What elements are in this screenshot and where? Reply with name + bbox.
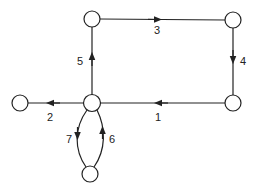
node-d xyxy=(84,95,101,112)
node-b xyxy=(225,12,241,28)
edge-label-4: 4 xyxy=(240,56,246,67)
directed-graph-diagram xyxy=(0,0,254,192)
edge-label-5: 5 xyxy=(77,56,83,67)
node-f xyxy=(82,166,98,182)
edge-label-7: 7 xyxy=(66,134,72,145)
edge-3 xyxy=(100,19,225,20)
node-a xyxy=(84,11,100,27)
edge-label-1: 1 xyxy=(155,112,161,123)
edge-label-2: 2 xyxy=(47,112,53,123)
edge-label-3: 3 xyxy=(154,25,160,36)
node-c xyxy=(225,95,241,111)
node-e xyxy=(12,95,28,111)
edge-label-6: 6 xyxy=(109,134,115,145)
edge-7 xyxy=(77,110,87,167)
